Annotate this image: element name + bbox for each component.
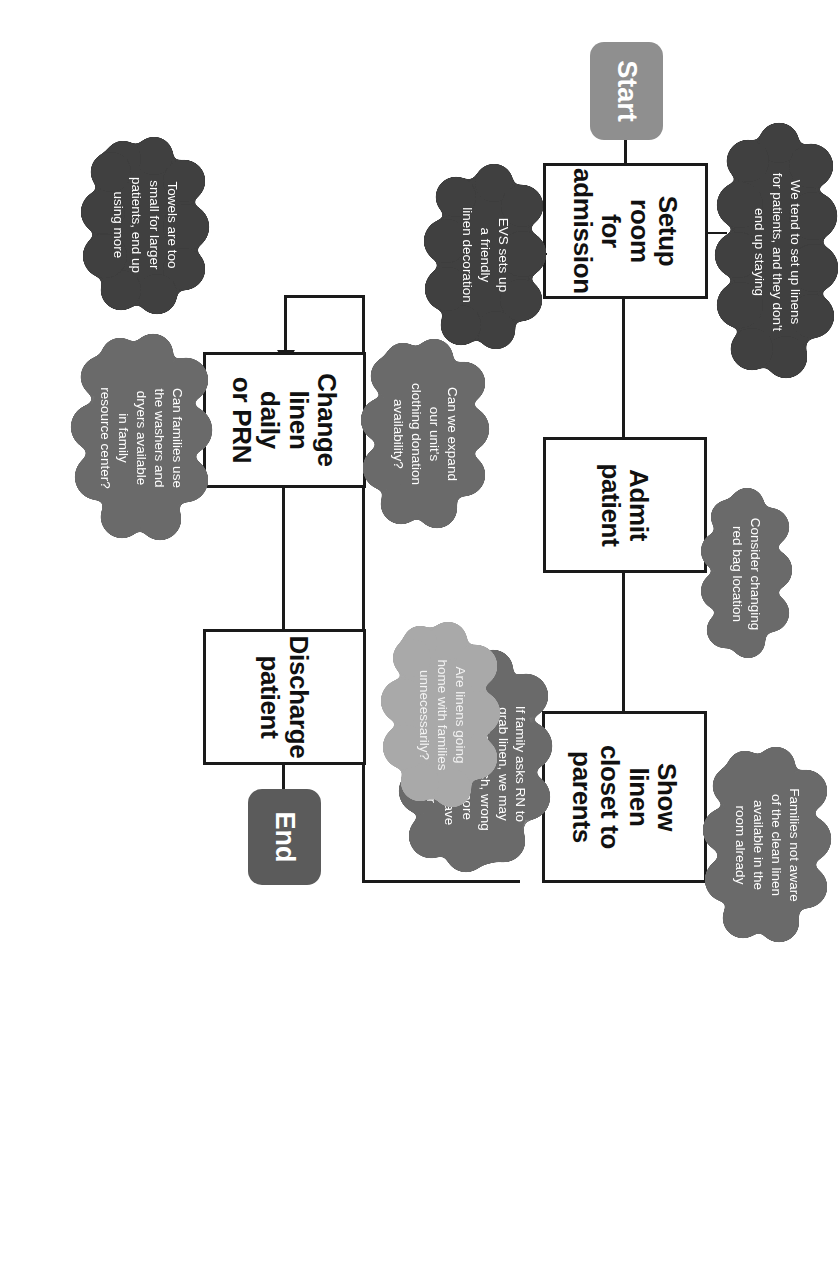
cloud-set-up-linens-text: We tend to set up linens for patients, a…	[750, 173, 803, 332]
node-show-linen-closet-to-parents[interactable]: Show linen closet to parents	[542, 711, 707, 883]
node-setup-room-for-admission[interactable]: Setup room for admission	[543, 163, 708, 299]
node-end[interactable]: End	[248, 789, 321, 885]
edge-show-to-change-seg4	[284, 295, 287, 353]
cloud-evs-decoration-text: EVS sets up a friendly linen decoration	[458, 207, 511, 302]
cloud-towels-too-small-text: Towels are too small for larger patients…	[109, 177, 180, 273]
edge-admit-to-show	[622, 572, 625, 720]
node-start[interactable]: Start	[590, 42, 663, 140]
cloud-families-not-aware-text: Families not aware of the clean linen av…	[731, 788, 802, 901]
cloud-washers-dryers-text: Can families use the washers and dryers …	[96, 387, 185, 488]
edge-start-to-setup	[624, 139, 627, 165]
cloud-linens-going-home: Are linens going home with families unne…	[399, 635, 485, 795]
cloud-clothing-donation: Can we expand our unit's clothing donati…	[377, 352, 473, 516]
cloud-clothing-donation-text: Can we expand our unit's clothing donati…	[389, 383, 460, 485]
cloud-tail-setlinens	[707, 232, 727, 234]
cloud-evs-decoration: EVS sets up a friendly linen decoration	[439, 175, 531, 335]
edge-discharge-to-end	[282, 763, 285, 791]
cloud-set-up-linens: We tend to set up linens for patients, a…	[733, 136, 821, 368]
cloud-linens-going-home-text: Are linens going home with families unne…	[415, 659, 468, 770]
cloud-washers-dryers: Can families use the washers and dryers …	[87, 348, 195, 528]
cloud-towels-too-small: Towels are too small for larger patients…	[97, 150, 193, 300]
cloud-red-bag-location: Consider changing red bag location	[715, 500, 777, 648]
node-change-linen-daily-or-prn[interactable]: Change linen daily or PRN	[203, 352, 366, 488]
edge-show-to-change-seg1	[362, 880, 520, 883]
cloud-red-bag-location-text: Consider changing red bag location	[728, 518, 764, 631]
edge-change-to-discharge	[282, 486, 285, 636]
node-discharge-patient[interactable]: Discharge patient	[203, 629, 366, 765]
edge-show-to-change-seg3	[285, 295, 365, 298]
cloud-families-not-aware: Families not aware of the clean linen av…	[719, 760, 815, 930]
edge-setup-to-admit	[622, 298, 625, 446]
node-admit-patient[interactable]: Admit patient	[543, 437, 707, 573]
